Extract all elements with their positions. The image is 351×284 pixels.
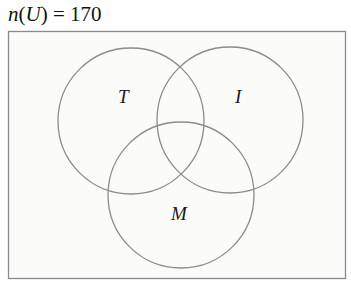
universe-rectangle bbox=[9, 32, 346, 279]
set-t-label: T bbox=[118, 86, 130, 107]
venn-diagram: T I M bbox=[0, 0, 351, 284]
set-m-label: M bbox=[170, 203, 188, 224]
